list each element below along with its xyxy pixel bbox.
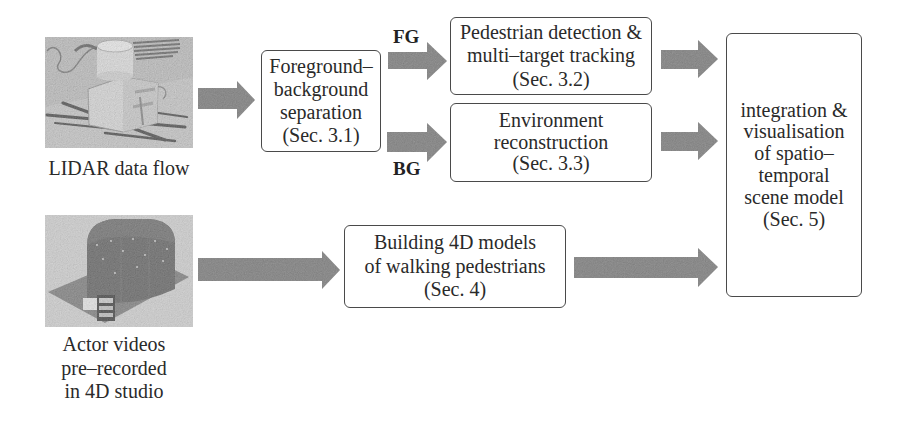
lidar-caption-line: LIDAR data flow: [45, 157, 193, 179]
box-line: Building 4D models: [374, 231, 536, 255]
actor-caption-line: pre–recorded: [39, 357, 189, 381]
box-line: Environment: [499, 110, 603, 132]
box-line: (Sec. 5): [763, 209, 825, 231]
box-line: (Sec. 4): [424, 278, 486, 302]
box-environment-reconstruction: Environment reconstruction (Sec. 3.3): [450, 103, 652, 182]
edge-label-bg: BG: [393, 159, 420, 178]
arrow-lidar-to-separation: [198, 81, 255, 119]
lidar-caption: LIDAR data flow: [45, 157, 193, 179]
box-integration-visualisation: integration & visualisation of spatio– t…: [726, 33, 862, 297]
edge-label-fg: FG: [393, 27, 419, 46]
box-line: separation: [280, 101, 362, 124]
lidar-sensor-icon: [45, 37, 193, 148]
arrow-actor-to-4d-models: [198, 251, 340, 289]
box-line: temporal: [758, 165, 829, 187]
box-line: background: [274, 78, 368, 101]
4d-studio-dome-icon: [45, 215, 193, 327]
actor-caption-line: Actor videos: [39, 333, 189, 357]
pipeline-diagram: LIDAR data flow: [0, 0, 899, 421]
arrow-pedestrian-detection-to-integration: [661, 40, 718, 78]
arrow-bg-to-environment-reconstruction: [387, 123, 447, 162]
box-line: multi–target tracking: [467, 44, 635, 68]
studio-image: [45, 215, 193, 327]
box-line: of spatio–: [754, 143, 833, 165]
box-line: (Sec. 3.1): [282, 124, 359, 147]
box-foreground-background-separation: Foreground– background separation (Sec. …: [261, 50, 381, 152]
lidar-image: [45, 37, 193, 148]
box-line: scene model: [744, 187, 843, 209]
actor-caption-line: in 4D studio: [39, 380, 189, 404]
box-line: integration &: [740, 100, 847, 122]
actor-caption: Actor videos pre–recorded in 4D studio: [39, 333, 189, 404]
box-line: visualisation: [743, 121, 844, 143]
arrow-4d-models-to-integration: [574, 248, 718, 287]
box-pedestrian-detection: Pedestrian detection & multi–target trac…: [450, 17, 652, 95]
box-line: (Sec. 3.2): [512, 68, 589, 92]
arrow-environment-to-integration: [661, 122, 718, 160]
box-line: Foreground–: [269, 55, 372, 78]
arrow-fg-to-pedestrian-detection: [388, 42, 447, 80]
box-line: Pedestrian detection &: [460, 21, 642, 45]
box-line: (Sec. 3.3): [512, 153, 589, 175]
box-line: of walking pedestrians: [364, 255, 545, 279]
box-line: reconstruction: [494, 132, 608, 154]
box-building-4d-models: Building 4D models of walking pedestrian…: [344, 225, 566, 308]
